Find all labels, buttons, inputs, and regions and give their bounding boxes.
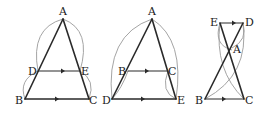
label-d: D [28,65,37,78]
label-b: B [118,65,126,78]
label-d: D [102,94,111,107]
label-c: C [245,94,253,107]
label-e: E [177,94,185,107]
label-a: A [147,5,157,18]
parallel-arrow-icon [141,97,145,102]
segment-a-c [63,19,89,99]
figure-3: E D A B C [195,16,254,107]
label-e: E [81,65,89,78]
label-c: C [89,94,97,107]
parallel-arrow-icon [222,97,226,102]
figure-1: A D E B C [15,5,97,107]
label-b: B [195,94,203,107]
parallel-lines-triangle-diagrams: A D E B C A B C D E [0,0,262,116]
label-a: A [232,43,242,56]
segment-a-e [152,19,176,99]
parallel-arrow-icon [232,21,236,26]
label-d: D [245,16,254,29]
label-b: B [15,94,23,107]
parallel-arrow-icon [55,97,59,102]
parallel-arrow-icon [61,69,65,74]
label-a: A [58,5,68,18]
parallel-arrow-icon [145,69,149,74]
label-e: E [210,16,218,29]
segment-a-d [112,19,152,99]
label-c: C [168,65,176,78]
figure-2: A B C D E [102,5,185,107]
